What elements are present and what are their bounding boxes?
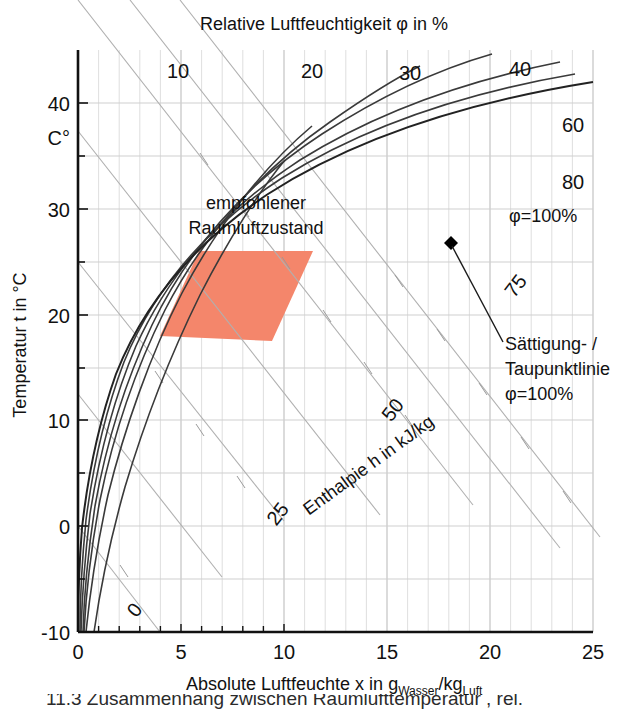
y-tick-40: 40 (48, 93, 70, 115)
y-tick--10: -10 (41, 622, 70, 644)
y-tick-30: 30 (48, 199, 70, 221)
grid-minor-vertical (99, 50, 573, 632)
dew-point-marker[interactable] (444, 236, 458, 250)
callout-leader-line (452, 246, 503, 342)
y-axis-title: Temperatur t in °C (10, 272, 30, 417)
figure-caption: 11.3 Zusammenhang zwischen Raumlufttempe… (0, 694, 640, 715)
phi-curve-100-saturation (78, 82, 593, 632)
phi-curve-40 (83, 54, 492, 632)
callout-label-line2: Taupunktlinie (505, 359, 610, 379)
x-tick-20: 20 (479, 641, 501, 663)
enthalpy-label-0: 0 (122, 599, 146, 621)
x-tick-5: 5 (175, 641, 186, 663)
enthalpy-label-25: 25 (262, 498, 293, 529)
enthalpy-axis-title: Enthalpie h in kJ/kg (299, 411, 437, 519)
enthalpy-label-50: 50 (377, 394, 408, 425)
phi-curve-60 (81, 62, 560, 632)
y-tick-20: 20 (48, 305, 70, 327)
y-axis-ticks (78, 103, 88, 579)
chart-svg: Relative Luftfeuchtigkeit φ in % 40 C° 3… (0, 0, 640, 715)
callout-label-line1: Sättigung- / (505, 334, 597, 354)
enthalpy-label-75: 75 (500, 270, 531, 301)
x-tick-25: 25 (582, 641, 604, 663)
x-tick-0: 0 (72, 641, 83, 663)
figure-caption-text: 11.3 Zusammenhang zwischen Raumlufttempe… (46, 694, 523, 710)
x-axis-title-main: Absolute Luftfeuchte x in g (186, 674, 398, 694)
phi-label-20: 20 (301, 60, 323, 82)
callout-label-line3: φ=100% (505, 384, 573, 404)
phi-label-100: φ=100% (509, 206, 577, 226)
chart-top-title: Relative Luftfeuchtigkeit φ in % (200, 14, 448, 34)
y-tick-0: 0 (59, 516, 70, 538)
phi-label-80: 80 (562, 171, 584, 193)
y-axis-unit-extra: C° (48, 127, 70, 149)
psychrometric-chart: Relative Luftfeuchtigkeit φ in % 40 C° 3… (0, 0, 640, 715)
phi-label-30: 30 (399, 62, 421, 84)
x-axis-title-mid: /kg (438, 674, 462, 694)
enthalpy-line-37 (78, 131, 380, 515)
phi-label-10: 10 (167, 60, 189, 82)
phi-label-60: 60 (562, 114, 584, 136)
y-tick-10: 10 (48, 410, 70, 432)
x-tick-10: 10 (273, 641, 295, 663)
phi-label-40: 40 (509, 58, 531, 80)
region-label-line2: Raumluftzustand (188, 218, 323, 238)
region-label-line1: empfohlener (206, 193, 306, 213)
x-tick-15: 15 (376, 641, 398, 663)
